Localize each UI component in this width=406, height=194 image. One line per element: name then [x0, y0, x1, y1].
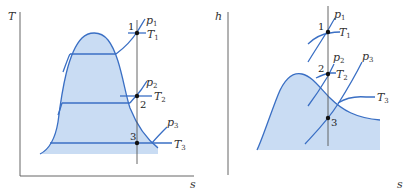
state-point-1 — [326, 30, 330, 34]
state-label-3: 3 — [130, 131, 136, 142]
temperature-label-t3: T3 — [377, 91, 389, 105]
pressure-label-p3: p3 — [167, 116, 179, 130]
s-axis-label: s — [397, 178, 403, 191]
pressure-label-p3: p3 — [362, 50, 374, 64]
two-phase-region — [40, 33, 158, 154]
t-s-diagram: T s 1 p1 T1 2 p2 T2 3 p3 T3 — [8, 10, 196, 191]
state-point-3 — [326, 116, 330, 120]
temperature-label-t2: T2 — [154, 90, 166, 104]
diagram-canvas: T s 1 p1 T1 2 p2 T2 3 p3 T3 — [0, 0, 406, 194]
state-label-3: 3 — [331, 117, 337, 128]
pressure-label-p2: p2 — [333, 51, 345, 65]
isotherm-t1 — [308, 32, 340, 44]
s-axis-label: s — [190, 178, 196, 191]
h-s-diagram: h s 1 p1 T1 2 p2 T2 3 p3 T3 — [215, 6, 403, 191]
state-point-1 — [135, 31, 139, 35]
temperature-label-t3: T3 — [174, 138, 186, 152]
pressure-label-p1: p1 — [334, 8, 346, 22]
temperature-label-t2: T2 — [336, 68, 348, 82]
t-axis-label: T — [8, 10, 17, 23]
state-label-2: 2 — [318, 63, 324, 74]
isobar-p3 — [152, 127, 167, 143]
state-point-2 — [326, 72, 330, 76]
isotherm-t3 — [338, 97, 375, 103]
temperature-label-t1: T1 — [339, 26, 351, 40]
temperature-label-t1: T1 — [147, 28, 159, 42]
state-label-1: 1 — [128, 21, 134, 32]
state-label-2: 2 — [140, 99, 146, 110]
pressure-label-p1: p1 — [146, 14, 158, 28]
state-label-1: 1 — [318, 21, 324, 32]
h-axis-label: h — [215, 10, 222, 23]
pressure-label-p2: p2 — [146, 76, 158, 90]
state-point-2 — [135, 94, 139, 98]
